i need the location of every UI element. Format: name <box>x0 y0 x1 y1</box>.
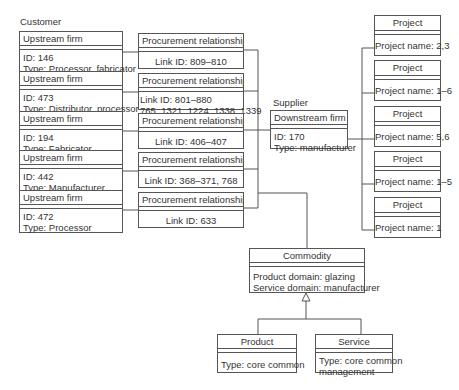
supplier-label: Supplier <box>273 97 308 108</box>
project-box[interactable]: Project Project name: 2,3 <box>374 15 441 56</box>
box-header: Commodity <box>250 249 364 263</box>
firm-id: ID: 170 <box>274 131 344 142</box>
project-name: Project name: 1 <box>375 217 440 235</box>
box-header: Upstream firm <box>20 32 122 46</box>
box-header: Procurement relationship <box>139 153 243 167</box>
box-header: Project <box>375 152 440 167</box>
firm-type: Type: manufacturer <box>274 142 344 153</box>
box-header: Project <box>375 107 440 122</box>
procurement-relationship-box[interactable]: Procurement relationship Link ID: 406–40… <box>138 113 244 149</box>
project-box[interactable]: Project Project name: 1–6 <box>374 60 441 101</box>
box-header: Service <box>316 335 392 349</box>
box-header: Upstream firm <box>20 191 122 205</box>
service-type-continued: management <box>319 366 389 377</box>
box-header: Procurement relationship <box>139 114 243 128</box>
procurement-relationship-box[interactable]: Procurement relationship Link ID: 368–37… <box>138 152 244 188</box>
product-box[interactable]: Product Type: core common <box>217 334 297 373</box>
service-box[interactable]: Service Type: core commonmanagement <box>315 334 393 373</box>
upstream-firm-box[interactable]: Upstream firm ID: 194Type: Fabricator <box>19 111 123 154</box>
link-id: Link ID: 801–880 <box>140 94 240 105</box>
box-header: Procurement relationship <box>139 34 243 48</box>
box-header: Procurement relationship <box>139 74 243 88</box>
firm-id: ID: 194 <box>23 132 119 143</box>
firm-type: Type: Processor <box>23 222 119 233</box>
box-header: Project <box>375 61 440 76</box>
firm-id: ID: 472 <box>23 211 119 222</box>
project-box[interactable]: Project Project name: 1–5 <box>374 151 441 192</box>
product-domain: Product domain: glazing <box>253 271 361 282</box>
box-header: Project <box>375 198 440 213</box>
firm-id: ID: 442 <box>23 171 119 182</box>
procurement-relationship-box[interactable]: Procurement relationship Link ID: 809–81… <box>138 33 244 69</box>
project-name: Project name: 2,3 <box>375 35 440 53</box>
project-box[interactable]: Project Project name: 5,6 <box>374 106 441 147</box>
upstream-firm-box[interactable]: Upstream firm ID: 442Type: Manufacturer <box>19 150 123 193</box>
upstream-firm-box[interactable]: Upstream firm ID: 473Type: Distributor, … <box>19 71 123 114</box>
upstream-firm-box[interactable]: Upstream firm ID: 472Type: Processor <box>19 190 123 233</box>
box-header: Downstream firm <box>271 111 347 125</box>
firm-id: ID: 473 <box>23 92 119 103</box>
box-header: Upstream firm <box>20 151 122 165</box>
link-id: Link ID: 633 <box>139 211 243 228</box>
link-id: Link ID: 809–810 <box>139 52 243 69</box>
box-header: Upstream firm <box>20 112 122 126</box>
service-type: Type: core common <box>319 355 389 366</box>
project-name: Project name: 1–6 <box>375 80 440 98</box>
link-id: Link ID: 406–407 <box>139 132 243 149</box>
customer-label: Customer <box>20 16 61 27</box>
project-name: Project name: 5,6 <box>375 126 440 144</box>
project-box[interactable]: Project Project name: 1 <box>374 197 441 238</box>
box-header: Product <box>218 335 296 349</box>
box-header: Project <box>375 16 440 31</box>
upstream-firm-box[interactable]: Upstream firm ID: 146Type: Processor, fa… <box>19 31 123 74</box>
product-type: Type: core common <box>218 353 296 372</box>
procurement-relationship-box[interactable]: Procurement relationship Link ID: 801–88… <box>138 73 244 110</box>
service-domain: Service domain: manufacturer <box>253 282 361 293</box>
link-id: Link ID: 368–371, 768 <box>139 171 243 188</box>
procurement-relationship-box[interactable]: Procurement relationship Link ID: 633 <box>138 192 244 228</box>
box-header: Procurement relationship <box>139 193 243 207</box>
firm-id: ID: 146 <box>23 52 119 63</box>
box-header: Upstream firm <box>20 72 122 86</box>
project-name: Project name: 1–5 <box>375 171 440 189</box>
downstream-firm-box[interactable]: Downstream firm ID: 170Type: manufacture… <box>270 110 348 149</box>
commodity-box[interactable]: Commodity Product domain: glazingService… <box>249 248 365 293</box>
